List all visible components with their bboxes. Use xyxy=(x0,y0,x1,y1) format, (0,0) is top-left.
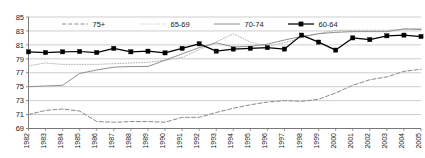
x-tick-label: 2001 xyxy=(347,133,354,149)
data-point-marker xyxy=(180,46,184,50)
data-point-marker xyxy=(385,34,389,38)
y-tick-label: 71 xyxy=(16,110,24,119)
y-tick-label: 83 xyxy=(16,27,24,36)
legend-label: 75+ xyxy=(93,20,106,29)
data-point-marker xyxy=(95,50,99,54)
data-point-marker xyxy=(197,42,201,46)
data-point-marker xyxy=(248,46,252,50)
data-point-marker xyxy=(231,47,235,51)
data-point-marker xyxy=(402,33,406,37)
data-point-marker xyxy=(299,33,303,37)
data-point-marker xyxy=(351,36,355,40)
data-point-marker xyxy=(334,48,338,52)
legend-marker-square xyxy=(299,22,304,27)
legend-label: 70-74 xyxy=(245,20,264,29)
y-tick-label: 69 xyxy=(16,124,24,133)
y-tick-label: 79 xyxy=(16,55,24,64)
legend-label: 65-69 xyxy=(171,20,190,29)
x-tick-label: 1988 xyxy=(125,133,132,149)
data-point-marker xyxy=(112,46,116,50)
data-point-marker xyxy=(129,50,133,54)
data-point-marker xyxy=(282,47,286,51)
series-line-65_69 xyxy=(29,28,422,66)
x-axis-tick-labels: 1982198319841985198619871988198919901991… xyxy=(23,133,423,149)
x-tick-label: 1998 xyxy=(296,133,303,149)
y-axis-tick-labels: 697173757779818385 xyxy=(16,13,24,134)
x-tick-label: 1984 xyxy=(57,133,64,149)
legend: 75+65-6970-7460-64 xyxy=(62,20,338,29)
x-tick-label: 1995 xyxy=(244,133,251,149)
x-tick-label: 1991 xyxy=(176,133,183,149)
data-point-marker xyxy=(368,38,372,42)
data-point-marker xyxy=(78,49,82,53)
x-tick-label: 1982 xyxy=(23,133,30,149)
data-point-marker xyxy=(146,49,150,53)
x-tick-label: 1989 xyxy=(142,133,149,149)
data-point-marker xyxy=(214,49,218,53)
data-point-marker xyxy=(163,51,167,55)
data-point-marker xyxy=(317,40,321,44)
x-tick-label: 1994 xyxy=(227,133,234,149)
line-chart: 6971737577798183851982198319841985198619… xyxy=(0,0,425,158)
x-tick-label: 1985 xyxy=(74,133,81,149)
y-tick-label: 85 xyxy=(16,13,24,22)
x-tick-label: 1983 xyxy=(40,133,47,149)
series-group xyxy=(26,28,423,122)
data-point-marker xyxy=(43,50,47,54)
x-tick-label: 2002 xyxy=(364,133,371,149)
x-tick-label: 1986 xyxy=(91,133,98,149)
x-tick-label: 2000 xyxy=(330,133,337,149)
x-tick-label: 1992 xyxy=(193,133,200,149)
data-point-marker xyxy=(61,50,65,54)
gridlines xyxy=(29,17,422,129)
legend-label: 60-64 xyxy=(319,20,338,29)
x-tick-label: 2004 xyxy=(398,133,405,149)
x-tick-label: 2003 xyxy=(381,133,388,149)
y-tick-label: 81 xyxy=(16,41,24,50)
x-tick-label: 1987 xyxy=(108,133,115,149)
series-line-70_74 xyxy=(29,29,422,87)
data-point-marker xyxy=(265,46,269,50)
x-tick-label: 1993 xyxy=(210,133,217,149)
data-point-marker xyxy=(419,34,423,38)
x-tick-label: 1990 xyxy=(159,133,166,149)
x-tick-label: 2005 xyxy=(415,133,422,149)
data-point-marker xyxy=(26,50,30,54)
y-tick-label: 77 xyxy=(16,68,24,77)
y-tick-label: 75 xyxy=(16,82,24,91)
chart-canvas: 6971737577798183851982198319841985198619… xyxy=(0,0,425,158)
y-tick-label: 73 xyxy=(16,96,24,105)
x-tick-label: 1999 xyxy=(313,133,320,149)
x-tick-label: 1996 xyxy=(261,133,268,149)
x-tick-label: 1997 xyxy=(278,133,285,149)
